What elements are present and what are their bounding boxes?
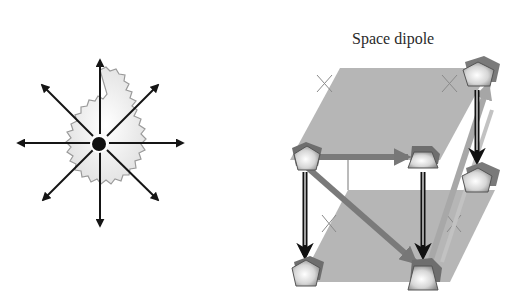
space-dipole-diagram xyxy=(270,0,516,308)
space-dipole-svg xyxy=(270,0,516,308)
source-dot-icon xyxy=(92,137,106,151)
radial-source-svg xyxy=(0,40,200,240)
node-mid-right xyxy=(462,162,500,192)
fractal-region xyxy=(66,67,146,184)
radial-source-diagram xyxy=(0,40,200,240)
lower-plane xyxy=(300,190,495,282)
node-top-middle xyxy=(408,146,440,168)
upper-plane xyxy=(290,68,490,160)
node-top-right xyxy=(463,56,500,86)
